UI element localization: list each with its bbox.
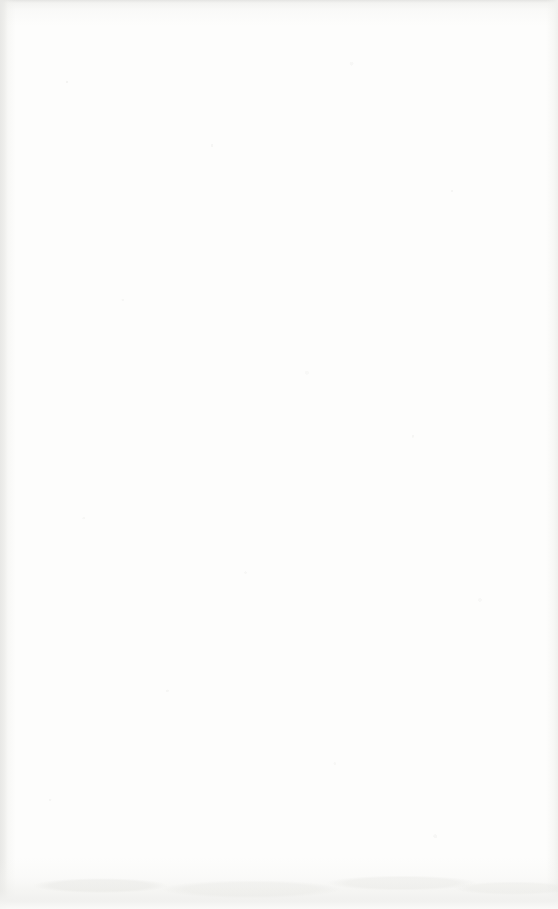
blank-scanned-page bbox=[0, 0, 558, 909]
scan-edge-left-shadow bbox=[0, 0, 16, 909]
paper-texture bbox=[0, 0, 558, 909]
scan-edge-bottom-shadow bbox=[0, 857, 558, 909]
scan-edge-right-shadow bbox=[546, 0, 558, 909]
scan-edge-top-shadow bbox=[0, 0, 558, 26]
